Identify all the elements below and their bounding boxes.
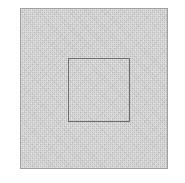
- figure-canvas: [0, 0, 185, 183]
- inner-square-shape: [68, 58, 130, 122]
- outer-square-shape: [20, 8, 168, 169]
